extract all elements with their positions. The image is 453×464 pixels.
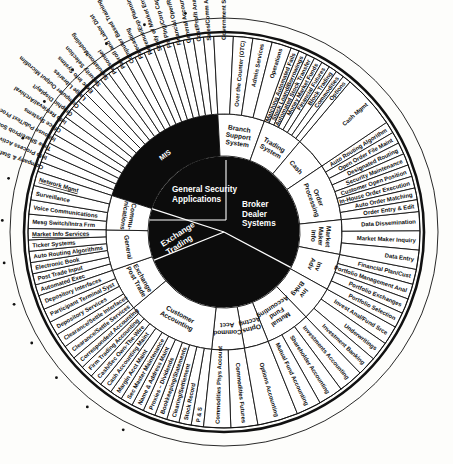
svg-text:Government Securities: Government Securities — [221, 0, 227, 40]
svg-text:Info: Info — [310, 230, 318, 242]
svg-text:Dealer: Dealer — [242, 210, 268, 219]
svg-text:General Security: General Security — [172, 185, 238, 194]
svg-text:Sales/Comm Analysis: Sales/Comm Analysis — [201, 0, 212, 41]
svg-text:Systems: Systems — [242, 219, 276, 228]
svg-text:Acct: Acct — [219, 322, 234, 330]
outer-ring-item[interactable]: Sales/Comm Analysis — [201, 0, 212, 41]
security-applications-wheel: General SecurityApplicationsBrokerDealer… — [0, 0, 453, 464]
outer-ring-item[interactable]: Government Securities — [221, 0, 227, 40]
svg-text:Applications: Applications — [172, 195, 222, 204]
svg-text:Market Info Services: Market Info Services — [32, 231, 90, 238]
diagram-canvas: General SecurityApplicationsBrokerDealer… — [0, 0, 453, 464]
outer-ring-item[interactable]: Market Info Services — [32, 231, 90, 238]
svg-text:Commod: Commod — [213, 329, 242, 337]
svg-text:Broker: Broker — [242, 200, 269, 209]
